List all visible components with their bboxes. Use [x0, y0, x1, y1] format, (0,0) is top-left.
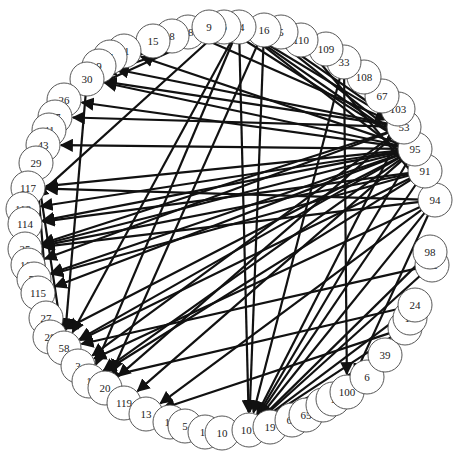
node-label: 108 [356, 71, 373, 83]
node-label: 16 [259, 24, 271, 36]
node-label: 13 [141, 408, 153, 420]
node-label: 15 [148, 35, 160, 47]
node-label: 20 [100, 382, 112, 394]
node-label: 98 [425, 246, 437, 258]
node-label: 39 [380, 349, 392, 361]
node-label: 10 [217, 427, 229, 439]
node-label: 9 [206, 21, 212, 33]
graph-canvas: 1881521793026174143291171181142511055115… [0, 0, 457, 451]
network-diagram: 1881521793026174143291171181142511055115… [0, 0, 457, 451]
node-label: 67 [377, 90, 389, 102]
node-label: 30 [82, 73, 94, 85]
node-label: 29 [31, 157, 43, 169]
edge-33-to-100 [344, 75, 347, 374]
node-24[interactable]: 24 [398, 288, 432, 322]
node-label: 19 [265, 421, 277, 433]
node-label: 95 [410, 143, 422, 155]
node-label: 100 [339, 386, 356, 398]
node-label: 91 [420, 165, 431, 177]
node-label: 6 [364, 371, 370, 383]
node-9b[interactable]: 9 [192, 10, 226, 44]
edge-33-to-101 [253, 75, 340, 413]
node-label: 24 [410, 299, 422, 311]
node-label: 94 [430, 194, 442, 206]
node-label: 115 [30, 287, 47, 299]
node-label: 114 [17, 218, 34, 230]
node-label: 109 [318, 43, 335, 55]
node-98[interactable]: 98 [413, 235, 447, 269]
node-label: 5 [182, 420, 188, 432]
